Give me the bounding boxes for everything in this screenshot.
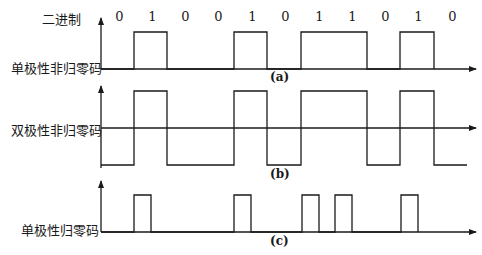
- waveform-diagram: [0, 0, 482, 255]
- unipolar-rz-waveform: [101, 181, 476, 232]
- bipolar-nrz-waveform: [101, 86, 476, 168]
- unipolar-nrz-waveform: [101, 18, 476, 69]
